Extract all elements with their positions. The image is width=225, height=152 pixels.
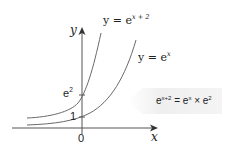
callout-equation: ex+2 = ex × e2	[156, 96, 212, 106]
x-axis-label: x	[151, 131, 158, 143]
curve-label-prefix: y = e	[103, 14, 132, 27]
intercept-e2-exponent: 2	[69, 86, 73, 93]
curve-e-x-plus-2	[27, 33, 101, 118]
eq-mid-exp: x	[188, 95, 191, 101]
eq-rhs-exp: 2	[208, 95, 211, 101]
eq-lhs-base: e	[156, 95, 162, 106]
intercept-label-e2: e2	[63, 88, 73, 99]
curve-label-exponent: x	[167, 50, 171, 58]
exponential-graph-diagram: y x 0 e2 1 y = ex + 2 y = ex ex+2 = ex ×…	[0, 0, 225, 152]
curve-label-e-x: y = ex	[138, 52, 171, 63]
origin-label: 0	[78, 133, 84, 144]
curve-label-exponent: x + 2	[132, 13, 150, 21]
y-axis-label: y	[70, 24, 77, 36]
eq-sign: =	[171, 95, 182, 106]
curve-label-prefix: y = e	[138, 51, 167, 64]
intercept-label-1: 1	[70, 111, 76, 122]
eq-times: ×	[191, 95, 202, 106]
curve-label-e-x-plus-2: y = ex + 2	[103, 15, 150, 26]
eq-lhs-exp: x+2	[162, 95, 172, 101]
